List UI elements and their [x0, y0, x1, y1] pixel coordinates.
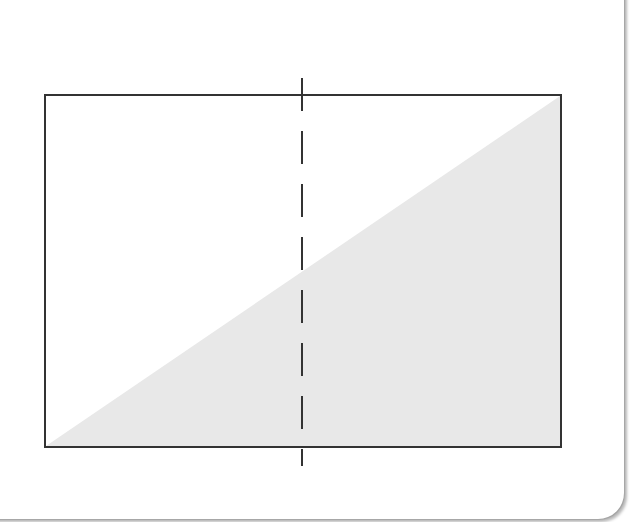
diagram-figure [0, 0, 630, 522]
